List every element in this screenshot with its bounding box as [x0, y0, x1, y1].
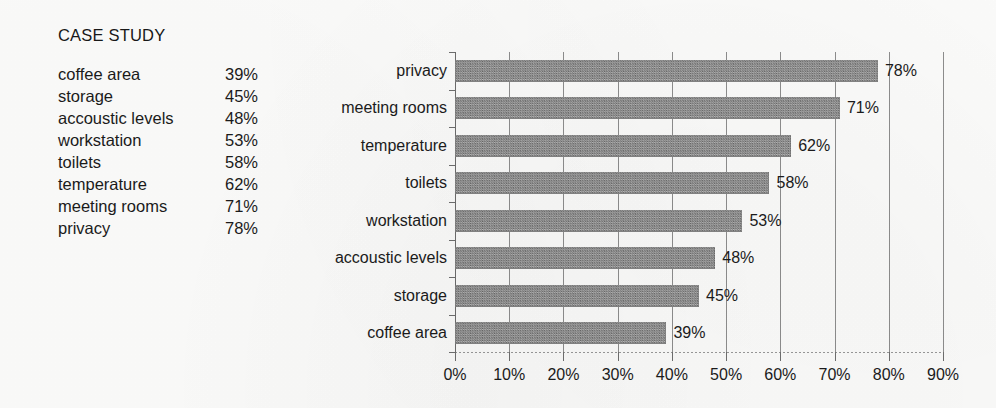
bar — [455, 97, 840, 119]
x-axis-tick-label: 40% — [656, 366, 688, 384]
bar — [455, 60, 878, 82]
x-axis-tick-label: 50% — [710, 366, 742, 384]
x-axis-tick-label: 20% — [547, 366, 579, 384]
x-axis-tick — [889, 352, 890, 361]
category-label: toilets — [405, 174, 447, 192]
x-axis-tick — [672, 352, 673, 361]
x-axis-tick-label: 80% — [873, 366, 905, 384]
bar — [455, 135, 791, 157]
bar-chart: privacymeeting roomstemperaturetoiletswo… — [0, 0, 996, 408]
category-label: workstation — [366, 212, 447, 230]
x-axis-tick-label: 0% — [443, 366, 466, 384]
x-axis-tick — [618, 352, 619, 361]
category-label: meeting rooms — [341, 99, 447, 117]
bar-value-label: 39% — [673, 324, 705, 342]
scanned-page: CASE STUDY coffee area39%storage45%accou… — [0, 0, 996, 408]
x-axis-tick — [726, 352, 727, 361]
bar — [455, 247, 715, 269]
x-axis-tick — [780, 352, 781, 361]
x-axis-tick — [455, 352, 456, 361]
category-label: storage — [394, 287, 447, 305]
x-axis-tick — [509, 352, 510, 361]
x-axis-tick — [943, 352, 944, 361]
plot-area — [455, 52, 943, 352]
x-axis-tick-label: 70% — [819, 366, 851, 384]
bar-value-label: 53% — [749, 212, 781, 230]
bar — [455, 172, 769, 194]
category-label: temperature — [361, 137, 447, 155]
x-axis-tick-label: 90% — [927, 366, 959, 384]
gridline — [943, 52, 944, 352]
category-label: accoustic levels — [335, 249, 447, 267]
bar-value-label: 78% — [885, 62, 917, 80]
bar — [455, 322, 666, 344]
gridline — [889, 52, 890, 352]
x-axis-tick — [563, 352, 564, 361]
category-label: coffee area — [367, 324, 447, 342]
bar — [455, 285, 699, 307]
x-axis-tick-label: 30% — [602, 366, 634, 384]
category-label: privacy — [396, 62, 447, 80]
x-axis-tick — [835, 352, 836, 361]
bar — [455, 210, 742, 232]
x-axis-tick-label: 60% — [764, 366, 796, 384]
bar-value-label: 71% — [847, 99, 879, 117]
x-axis-line — [455, 352, 943, 353]
bar-value-label: 45% — [706, 287, 738, 305]
bar-value-label: 58% — [776, 174, 808, 192]
x-axis-tick-label: 10% — [493, 366, 525, 384]
bar-value-label: 62% — [798, 137, 830, 155]
bar-value-label: 48% — [722, 249, 754, 267]
